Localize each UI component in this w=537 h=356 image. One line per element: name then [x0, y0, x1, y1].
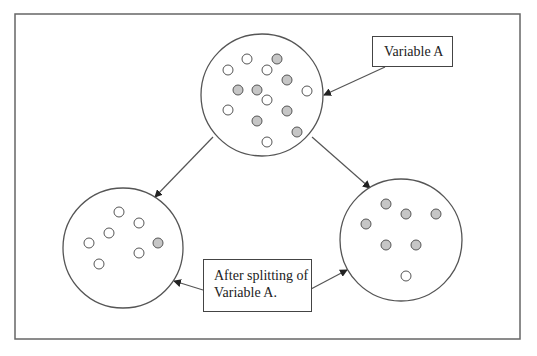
filled-dot — [381, 199, 391, 209]
hollow-dot — [262, 65, 272, 75]
filled-dot — [282, 106, 292, 116]
hollow-dot — [134, 218, 144, 228]
variable-a-label: Variable A — [384, 44, 443, 59]
node-left-child — [63, 188, 183, 308]
hollow-dot — [84, 238, 94, 248]
hollow-dot — [104, 228, 114, 238]
hollow-dot — [262, 95, 272, 105]
filled-dot — [233, 85, 243, 95]
filled-dot — [431, 209, 441, 219]
hollow-dot — [223, 65, 233, 75]
hollow-dot — [114, 207, 124, 217]
hollow-dot — [262, 137, 272, 147]
filled-dot — [361, 219, 371, 229]
arrow-label-a-to-parent — [324, 67, 385, 95]
filled-dot — [272, 54, 282, 64]
arrow-split-label-to-right — [311, 270, 347, 289]
filled-dot — [282, 75, 292, 85]
arrow-parent-to-left — [155, 137, 213, 197]
hollow-dot — [223, 105, 233, 115]
filled-dot — [153, 238, 163, 248]
variable-a-label-box: Variable A — [372, 36, 453, 67]
after-split-label-line2: Variable A. — [214, 284, 311, 301]
hollow-dot — [134, 248, 144, 258]
arrow-parent-to-right — [312, 137, 370, 188]
hollow-dot — [302, 86, 312, 96]
after-split-label-line1: After splitting of — [214, 267, 311, 284]
filled-dot — [292, 127, 302, 137]
hollow-dot — [242, 54, 252, 64]
filled-dot — [381, 240, 391, 250]
node-right-child — [340, 179, 462, 301]
hollow-dot — [401, 271, 411, 281]
node-parent — [201, 34, 323, 156]
node-circle — [63, 188, 183, 308]
filled-dot — [252, 85, 262, 95]
after-split-label-box: After splitting of Variable A. — [203, 259, 312, 312]
arrow-split-label-to-left — [174, 281, 203, 290]
node-circle — [340, 179, 462, 301]
filled-dot — [252, 116, 262, 126]
hollow-dot — [94, 259, 104, 269]
filled-dot — [401, 209, 411, 219]
filled-dot — [411, 240, 421, 250]
